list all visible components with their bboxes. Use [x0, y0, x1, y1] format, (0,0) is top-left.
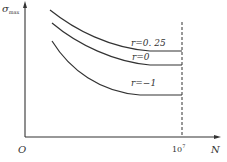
- y-axis-arrow-icon: [23, 1, 27, 8]
- label-r-minus-1: r=−1: [131, 78, 156, 88]
- y-axis-label: σmax: [2, 3, 20, 15]
- label-r-0: r=0: [132, 52, 150, 62]
- origin-label: O: [18, 144, 26, 155]
- x-axis-arrow-icon: [214, 135, 221, 139]
- curve-r-minus-1: [52, 41, 182, 95]
- label-r-0.25: r=0. 25: [131, 38, 166, 48]
- fatigue-curve-diagram: σmax r=0. 25 r=0 r=−1 O 107 N: [0, 0, 227, 162]
- x-axis-label: N: [210, 144, 221, 155]
- x-tick-1e7: 107: [172, 143, 185, 154]
